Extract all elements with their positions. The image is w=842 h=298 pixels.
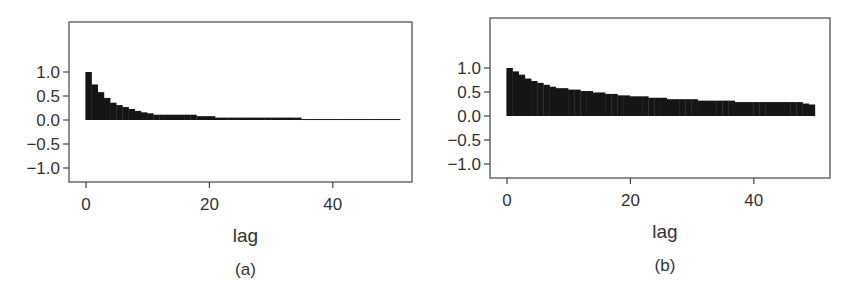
acf-bar — [85, 72, 91, 120]
acf-bar — [593, 92, 599, 116]
acf-bar — [729, 101, 735, 116]
x-tick-label: 0 — [81, 195, 90, 214]
acf-figure: 1.00.50.0−0.5−1.0 02040 lag (a) 1.00.50.… — [0, 0, 842, 298]
y-tick-label: −1.0 — [26, 159, 60, 178]
acf-bar — [550, 87, 556, 116]
x-tick-label: 40 — [323, 195, 342, 214]
acf-bar — [283, 118, 289, 120]
acf-bar — [159, 115, 165, 120]
acf-bar — [345, 119, 351, 120]
acf-bar — [691, 99, 697, 116]
acf-bar — [196, 116, 202, 120]
acf-bar — [295, 118, 301, 120]
y-tick-label: −0.5 — [447, 131, 481, 150]
acf-bar — [710, 101, 716, 116]
acf-bars — [506, 68, 815, 116]
acf-bar — [122, 107, 128, 120]
acf-bar — [308, 119, 314, 120]
acf-bar — [630, 96, 636, 116]
acf-bar — [661, 98, 667, 116]
acf-bar — [796, 102, 802, 116]
acf-bar — [759, 102, 765, 116]
acf-bar — [667, 99, 673, 116]
acf-bar — [382, 119, 388, 120]
panel-caption: (a) — [235, 260, 256, 279]
x-tick-label: 0 — [502, 191, 511, 210]
acf-bar — [326, 119, 332, 120]
acf-bar — [388, 119, 394, 120]
acf-bar — [685, 99, 691, 116]
acf-bar — [270, 118, 276, 120]
acf-bar — [568, 90, 574, 116]
acf-bar — [141, 112, 147, 120]
x-axis: 02040 — [502, 178, 763, 210]
acf-bar — [784, 102, 790, 116]
acf-bar — [772, 102, 778, 116]
acf-bar — [363, 119, 369, 120]
plot-frame — [69, 22, 412, 182]
acf-bar — [673, 99, 679, 116]
y-tick-label: −1.0 — [447, 155, 481, 174]
acf-bar — [698, 101, 704, 116]
acf-bar — [722, 101, 728, 116]
y-tick-label: 1.0 — [457, 59, 481, 78]
acf-bar — [209, 116, 215, 120]
acf-bar — [716, 101, 722, 116]
acf-bar — [704, 101, 710, 116]
acf-bar — [531, 81, 537, 116]
acf-bar — [135, 111, 141, 120]
acf-bar — [611, 94, 617, 116]
acf-bar — [221, 118, 227, 120]
acf-bar — [190, 115, 196, 120]
acf-bar — [809, 104, 815, 116]
acf-bar — [375, 119, 381, 120]
acf-bar — [587, 91, 593, 116]
acf-bar — [258, 118, 264, 120]
acf-bar — [178, 115, 184, 120]
acf-bar — [357, 119, 363, 120]
acf-bar — [92, 84, 98, 120]
acf-bar — [580, 91, 586, 116]
x-axis-label: lag — [652, 221, 677, 242]
acf-bars — [85, 72, 400, 120]
acf-bar — [203, 116, 209, 120]
acf-bar — [153, 115, 159, 120]
acf-bar — [215, 118, 221, 120]
acf-bar — [332, 119, 338, 120]
acf-bar — [753, 102, 759, 116]
acf-bar — [351, 119, 357, 120]
acf-bar — [766, 102, 772, 116]
acf-bar — [320, 119, 326, 120]
y-tick-label: 0.5 — [457, 83, 481, 102]
acf-bar — [129, 109, 135, 120]
acf-bar — [506, 68, 512, 116]
acf-bar — [184, 115, 190, 120]
acf-panel-b: 1.00.50.0−0.5−1.0 02040 lag (b) — [447, 18, 830, 275]
acf-bar — [104, 98, 110, 120]
y-tick-label: 0.0 — [36, 111, 60, 130]
acf-panel-a: 1.00.50.0−0.5−1.0 02040 lag (a) — [26, 22, 412, 279]
acf-bar — [519, 75, 525, 116]
y-tick-label: 0.5 — [36, 87, 60, 106]
acf-bar — [624, 95, 630, 116]
acf-bar — [747, 102, 753, 116]
acf-bar — [654, 98, 660, 116]
acf-bar — [735, 102, 741, 116]
y-tick-label: −0.5 — [26, 135, 60, 154]
acf-bar — [147, 113, 153, 120]
acf-bar — [314, 119, 320, 120]
acf-bar — [741, 102, 747, 116]
acf-bar — [240, 118, 246, 120]
acf-bar — [642, 96, 648, 116]
acf-bar — [338, 119, 344, 120]
acf-bar — [648, 98, 654, 116]
x-axis: 02040 — [81, 182, 342, 214]
y-tick-label: 1.0 — [36, 63, 60, 82]
acf-bar — [394, 119, 400, 120]
acf-bar — [525, 79, 531, 116]
acf-bar — [556, 88, 562, 116]
x-tick-label: 20 — [621, 191, 640, 210]
acf-bar — [543, 85, 549, 116]
acf-bar — [599, 92, 605, 116]
acf-bar — [289, 118, 295, 120]
